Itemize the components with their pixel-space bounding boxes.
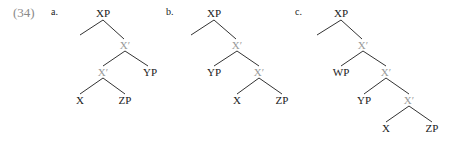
tree-c-node-xbar-3: X′ (404, 95, 414, 106)
tree-c-node-wp: WP (333, 67, 350, 78)
tree-c-node-xbar-1: X′ (358, 40, 368, 51)
tree-c-branch-6 (386, 106, 409, 122)
tree-c-branch-4 (364, 78, 386, 94)
tree-a-node-x: X (76, 95, 84, 106)
tree-a-node-xbar-2: X′ (98, 67, 108, 78)
tree-c-branch-1 (341, 20, 362, 39)
tree-c-branch-3 (363, 51, 386, 66)
tree-a-branch-5 (103, 78, 125, 94)
tree-a-node-yp: YP (143, 67, 157, 78)
example-number: (34) (13, 6, 35, 19)
tree-b-label: b. (166, 7, 174, 17)
tree-a-branch-0 (80, 20, 103, 35)
tree-c-branch-0 (317, 20, 341, 35)
tree-b-branch-2 (214, 51, 237, 66)
tree-b-node-x: X (233, 95, 241, 106)
tree-a-node-xbar-1: X′ (120, 40, 130, 51)
tree-c-branch-2 (341, 51, 363, 66)
tree-c-node-yp: YP (357, 95, 371, 106)
tree-b-branch-4 (237, 78, 259, 94)
tree-a-branch-2 (103, 51, 125, 66)
tree-b-node-xbar-1: X′ (232, 40, 242, 51)
tree-b-node-xbar-2: X′ (254, 67, 264, 78)
tree-b-node-yp: YP (207, 67, 221, 78)
tree-a-branch-4 (80, 78, 103, 94)
tree-c-node-xbar-2: X′ (381, 67, 391, 78)
syntax-tree-figure: (34) a. b. c. XP X′ X′ YP X ZP XP X′ YP … (0, 0, 450, 144)
tree-c-branch-5 (386, 78, 409, 94)
tree-b-branch-5 (259, 78, 282, 94)
tree-c-node-xp: XP (334, 8, 348, 19)
tree-c-node-zp: ZP (426, 123, 439, 134)
tree-b-branch-3 (237, 51, 259, 66)
tree-b-node-xp: XP (207, 8, 221, 19)
tree-a-label: a. (51, 7, 58, 17)
tree-a-node-zp: ZP (119, 95, 132, 106)
tree-b-node-zp: ZP (276, 95, 289, 106)
tree-c-branch-7 (409, 106, 432, 122)
tree-b-branch-1 (214, 20, 236, 39)
tree-a-node-xp: XP (96, 8, 110, 19)
tree-a-branch-3 (125, 51, 148, 66)
tree-c-node-x: X (382, 123, 390, 134)
tree-b-branch-0 (191, 20, 214, 35)
tree-a-branch-1 (103, 20, 124, 39)
tree-c-label: c. (295, 7, 302, 17)
